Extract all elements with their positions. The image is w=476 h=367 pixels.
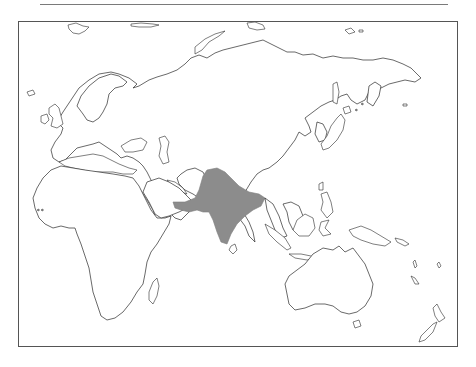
- new-siberian-islands: [345, 28, 363, 34]
- new-guinea: [349, 226, 391, 246]
- new-zealand-north-island: [433, 304, 445, 322]
- ireland: [41, 114, 49, 124]
- sri-lanka: [229, 244, 237, 254]
- new-caledonia: [411, 276, 419, 284]
- vanuatu-fiji: [413, 260, 441, 268]
- kamchatka: [367, 82, 381, 106]
- taiwan: [319, 182, 323, 190]
- franz-josef-land: [131, 23, 159, 27]
- madagascar: [149, 278, 159, 304]
- top-rule: [40, 4, 448, 5]
- new-zealand-south-island: [419, 322, 437, 342]
- map-frame: [18, 21, 458, 347]
- svalbard: [68, 23, 89, 34]
- sulawesi: [319, 220, 331, 236]
- great-britain: [49, 104, 63, 128]
- iceland: [27, 90, 35, 96]
- world-map: [19, 22, 457, 346]
- solomon-islands: [395, 238, 409, 246]
- hokkaido: [343, 106, 351, 114]
- severnaya-zemlya: [247, 22, 265, 30]
- kuril-islands: [355, 103, 407, 111]
- novaya-zemlya: [195, 31, 225, 54]
- philippines: [321, 192, 333, 218]
- tasmania: [353, 320, 361, 328]
